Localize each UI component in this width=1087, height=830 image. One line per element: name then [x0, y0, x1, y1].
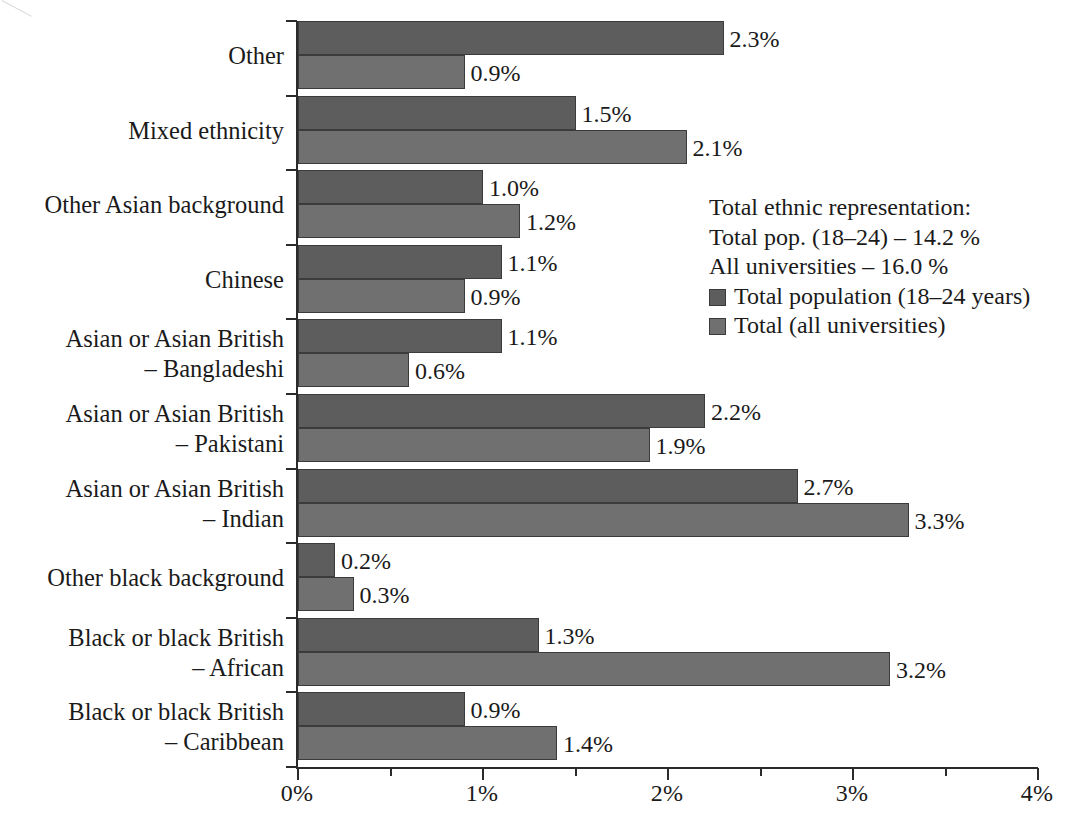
bar — [298, 279, 465, 313]
bar — [298, 21, 724, 55]
bar-value-label: 2.1% — [693, 136, 743, 160]
x-axis-tick-label: 4% — [1021, 780, 1053, 807]
legend-entry-label: Total (all universities) — [734, 311, 946, 341]
category-label: Mixed ethnicity — [0, 116, 284, 146]
bar — [298, 319, 502, 353]
bar — [298, 652, 890, 686]
legend-heading: Total ethnic representation: — [709, 193, 1030, 223]
category-label: Asian or Asian British – Bangladeshi — [0, 324, 284, 384]
bar-value-label: 1.3% — [545, 624, 595, 648]
bar-group: Asian or Asian British – Pakistani2.2%1.… — [0, 394, 1087, 469]
category-label: Black or black British – African — [0, 623, 284, 683]
bar-value-label: 1.9% — [656, 434, 706, 458]
bar — [298, 503, 909, 537]
bar-group: Asian or Asian British – Indian2.7%3.3% — [0, 469, 1087, 544]
category-label: Other black background — [0, 563, 284, 593]
bar — [298, 96, 576, 130]
plot-area: 0%1%2%3%4% Other2.3%0.9%Mixed ethnicity1… — [0, 0, 1087, 830]
bar — [298, 394, 705, 428]
bar-value-label: 0.6% — [415, 359, 465, 383]
bar-value-label: 0.3% — [360, 583, 410, 607]
x-axis-tick — [852, 768, 854, 780]
bar-value-label: 2.2% — [711, 400, 761, 424]
category-label: Other — [0, 41, 284, 71]
bar — [298, 692, 465, 726]
bar — [298, 543, 335, 577]
bar — [298, 428, 650, 462]
chart-legend: Total ethnic representation: Total pop. … — [709, 193, 1030, 341]
bar — [298, 469, 798, 503]
legend-swatch-icon — [709, 289, 726, 306]
bar-value-label: 1.4% — [563, 732, 613, 756]
bar — [298, 353, 409, 387]
bar-value-label: 2.7% — [804, 475, 854, 499]
bar-value-label: 0.9% — [471, 698, 521, 722]
x-axis-tick — [482, 768, 484, 780]
category-label: Asian or Asian British – Indian — [0, 474, 284, 534]
legend-summary-all-universities: All universities – 16.0 % — [709, 252, 1030, 282]
category-label: Asian or Asian British – Pakistani — [0, 399, 284, 459]
bar-value-label: 1.5% — [582, 102, 632, 126]
bar — [298, 245, 502, 279]
bar-value-label: 1.1% — [508, 325, 558, 349]
bar — [298, 618, 539, 652]
bar-value-label: 0.2% — [341, 549, 391, 573]
bar — [298, 726, 557, 760]
bar-group: Other black background0.2%0.3% — [0, 543, 1087, 618]
x-axis-tick-label: 2% — [651, 780, 683, 807]
x-axis-tick-label: 3% — [836, 780, 868, 807]
x-axis-tick — [667, 768, 669, 780]
legend-entry-label: Total population (18–24 years) — [734, 282, 1030, 312]
bar — [298, 577, 354, 611]
bar-value-label: 0.9% — [471, 61, 521, 85]
x-axis-tick — [1037, 768, 1039, 780]
category-label: Chinese — [0, 265, 284, 295]
bar-value-label: 1.1% — [508, 251, 558, 275]
bar-chart: 0%1%2%3%4% Other2.3%0.9%Mixed ethnicity1… — [0, 0, 1087, 830]
bar-value-label: 0.9% — [471, 285, 521, 309]
x-axis-minor-tick — [760, 768, 762, 776]
legend-swatch-icon — [709, 318, 726, 335]
x-axis-tick-label: 0% — [281, 780, 313, 807]
x-axis-minor-tick — [390, 768, 392, 776]
x-axis-minor-tick — [575, 768, 577, 776]
bar-value-label: 1.2% — [526, 210, 576, 234]
bar — [298, 204, 520, 238]
bar — [298, 130, 687, 164]
bar-group: Black or black British – Caribbean0.9%1.… — [0, 692, 1087, 767]
category-label: Other Asian background — [0, 190, 284, 220]
category-label: Black or black British – Caribbean — [0, 697, 284, 757]
legend-summary-total-population: Total pop. (18–24) – 14.2 % — [709, 223, 1030, 253]
bar-group: Other2.3%0.9% — [0, 21, 1087, 96]
x-axis-tick-label: 1% — [466, 780, 498, 807]
bar-value-label: 2.3% — [730, 27, 780, 51]
bar-value-label: 3.3% — [915, 509, 965, 533]
bar — [298, 170, 483, 204]
bar-value-label: 1.0% — [489, 176, 539, 200]
bar — [298, 55, 465, 89]
bar-group: Mixed ethnicity1.5%2.1% — [0, 96, 1087, 171]
legend-entry-total-population: Total population (18–24 years) — [709, 282, 1030, 312]
bar-group: Black or black British – African1.3%3.2% — [0, 618, 1087, 693]
x-axis-minor-tick — [945, 768, 947, 776]
x-axis-tick — [297, 768, 299, 780]
legend-entry-all-universities: Total (all universities) — [709, 311, 1030, 341]
bar-value-label: 3.2% — [896, 658, 946, 682]
